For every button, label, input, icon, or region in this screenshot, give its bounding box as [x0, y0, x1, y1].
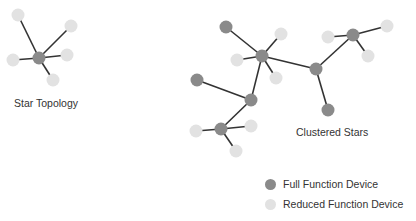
full-function-device-node — [33, 52, 46, 65]
reduced-function-device-node — [362, 50, 375, 63]
full-function-device-node — [322, 104, 335, 117]
full-function-device-node — [347, 29, 360, 42]
reduced-function-device-node — [270, 72, 283, 85]
rfd-legend-icon — [265, 199, 276, 210]
edge — [316, 35, 353, 69]
ffd-legend-label: Full Function Device — [283, 178, 378, 190]
reduced-function-device-node — [230, 145, 243, 158]
reduced-function-device-node — [381, 20, 394, 33]
reduced-function-device-node — [47, 74, 60, 87]
edge — [251, 56, 262, 100]
edge — [226, 27, 262, 56]
reduced-function-device-node — [65, 20, 78, 33]
reduced-function-device-node — [190, 125, 203, 138]
reduced-function-device-node — [245, 120, 258, 133]
full-function-device-node — [220, 21, 233, 34]
edge — [18, 15, 39, 58]
clustered-stars-label: Clustered Stars — [296, 126, 368, 138]
full-function-device-node — [310, 63, 323, 76]
ffd-legend-icon — [265, 179, 276, 190]
star-topology-label: Star Topology — [14, 97, 78, 109]
reduced-function-device-node — [275, 28, 288, 41]
reduced-function-device-node — [12, 9, 25, 22]
full-function-device-node — [215, 123, 228, 136]
full-function-device-node — [256, 50, 269, 63]
reduced-function-device-node — [61, 49, 74, 62]
reduced-function-device-node — [322, 31, 335, 44]
edge — [262, 56, 316, 69]
rfd-legend-label: Reduced Function Device — [283, 198, 403, 210]
full-function-device-node — [245, 94, 258, 107]
full-function-device-node — [191, 74, 204, 87]
edge — [197, 80, 251, 100]
reduced-function-device-node — [7, 54, 20, 67]
reduced-function-device-node — [231, 54, 244, 67]
